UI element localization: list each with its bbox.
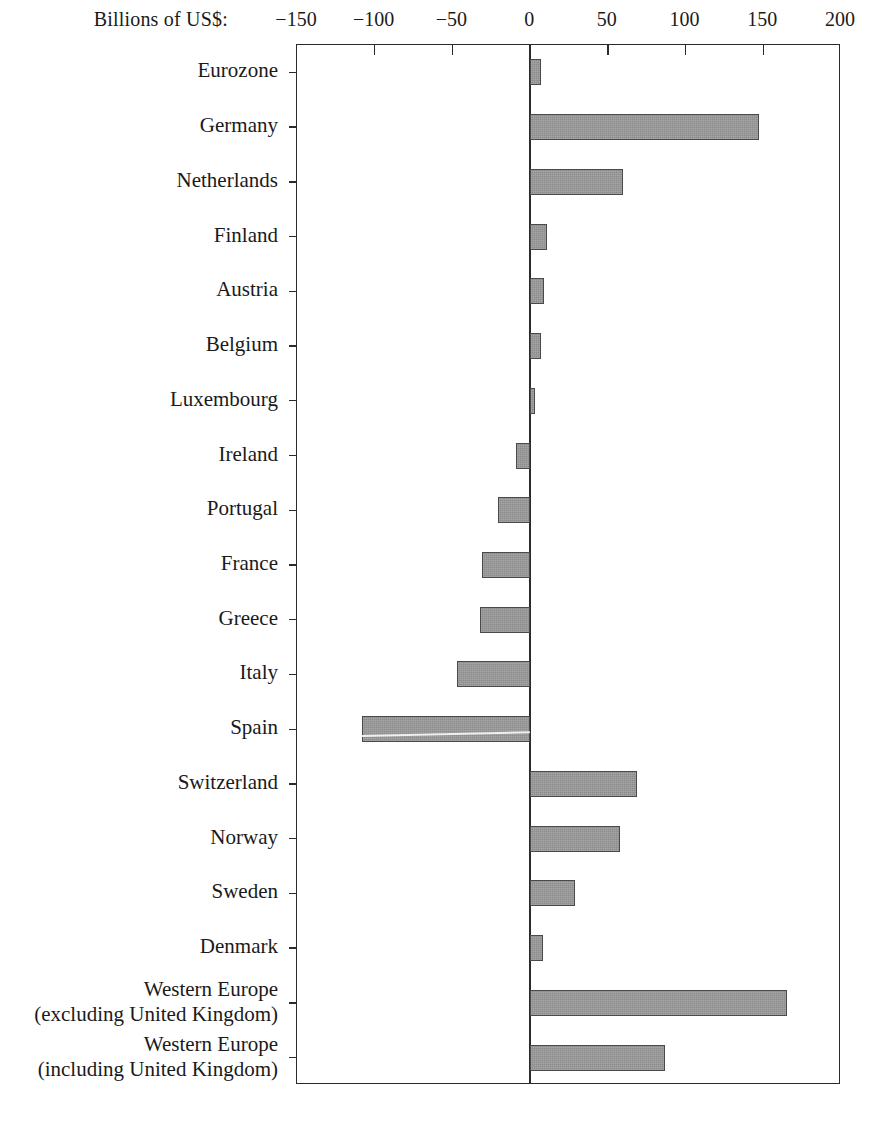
chart-figure: Billions of US$: −150−100−50050100150200… [0,0,873,1127]
axis-tick-label: −150 [275,8,316,31]
category-label: Eurozone [198,58,288,83]
bar [530,59,541,85]
axis-tick-label: 0 [524,8,534,31]
bar [482,552,530,578]
category-label: Sweden [212,879,289,904]
bar [362,716,530,742]
category-label: Portugal [207,496,288,521]
category-label: Ireland [219,442,288,467]
axis-tick-mark [452,45,453,55]
axis-tick-mark [374,45,375,55]
axis-tick-mark [685,45,686,55]
category-tick-mark [289,564,297,565]
category-label: Norway [210,825,288,850]
category-label: Spain [230,715,288,740]
bar [530,935,542,961]
axis-tick-label: −100 [353,8,394,31]
bar [498,497,531,523]
category-tick-mark [289,1002,297,1003]
category-label: France [221,551,288,576]
bar [530,771,637,797]
category-tick-mark [289,400,297,401]
category-tick-mark [289,126,297,127]
category-label: Western Europe (including United Kingdom… [38,1032,288,1082]
bar [530,880,575,906]
bar [530,333,541,359]
category-label: Germany [200,113,288,138]
category-label: Finland [214,223,288,248]
category-label: Netherlands [177,168,288,193]
bar [530,826,620,852]
category-tick-mark [289,345,297,346]
category-tick-mark [289,783,297,784]
bar [530,990,786,1016]
axis-tick-mark [607,45,608,55]
category-label: Switzerland [178,770,288,795]
bar [530,388,535,414]
plot-area [296,44,840,1084]
axis-tick-label: −50 [436,8,467,31]
bar [516,443,530,469]
category-tick-mark [289,510,297,511]
category-tick-mark [289,674,297,675]
axis-tick-label: 200 [825,8,855,31]
bar [530,278,544,304]
bar [457,661,530,687]
category-label: Denmark [200,934,288,959]
category-tick-mark [289,947,297,948]
category-label: Belgium [206,332,288,357]
category-label: Western Europe (excluding United Kingdom… [34,977,288,1027]
category-label: Austria [216,277,288,302]
category-tick-mark [289,1057,297,1058]
category-tick-mark [289,72,297,73]
category-label: Italy [240,660,288,685]
bar [530,1045,665,1071]
category-tick-mark [289,455,297,456]
category-tick-mark [289,893,297,894]
axis-tick-mark [763,45,764,55]
category-label: Luxembourg [170,387,288,412]
category-tick-mark [289,619,297,620]
axis-tick-label: 50 [597,8,617,31]
bar [530,114,758,140]
bar [480,607,530,633]
axis-tick-label: 100 [670,8,700,31]
category-tick-mark [289,291,297,292]
category-labels: EurozoneGermanyNetherlandsFinlandAustria… [0,44,288,1084]
category-tick-mark [289,729,297,730]
bar [530,169,623,195]
category-tick-mark [289,236,297,237]
category-tick-mark [289,838,297,839]
axis-header: Billions of US$: −150−100−50050100150200 [0,0,873,44]
axis-tick-label: 150 [747,8,777,31]
category-label: Greece [219,606,288,631]
axis-unit-label: Billions of US$: [94,8,228,31]
category-tick-mark [289,181,297,182]
bar [530,224,547,250]
